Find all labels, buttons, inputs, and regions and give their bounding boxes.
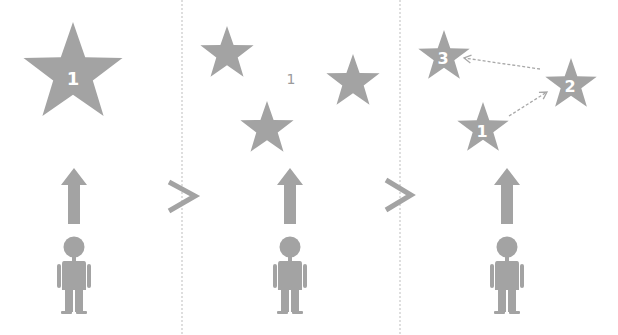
up-arrow-icon — [277, 168, 303, 224]
star-label: 1 — [67, 68, 80, 89]
person-head — [64, 237, 85, 258]
star-shape — [326, 54, 379, 105]
panel-single-goal: 1 — [24, 22, 123, 314]
floating-label: 1 — [287, 71, 296, 87]
panel-ordered-goals: 3 2 1 — [418, 30, 596, 314]
arrow-shape — [61, 168, 87, 224]
star-label: 2 — [564, 77, 575, 96]
person-arm — [57, 264, 61, 288]
person-leg — [75, 288, 83, 312]
person-torso — [62, 261, 86, 290]
up-arrow-icon — [61, 168, 87, 224]
star-shape — [240, 101, 293, 152]
person-leg — [281, 288, 289, 312]
star-label: 1 — [476, 122, 487, 141]
goal-progression-diagram: 1 1 3 2 1 — [0, 0, 618, 335]
person-foot — [509, 311, 520, 314]
person-neck — [505, 256, 509, 261]
person-leg — [291, 288, 299, 312]
person-torso — [278, 261, 302, 290]
star-label: 3 — [437, 49, 448, 68]
person-foot — [61, 311, 72, 314]
star-icon — [240, 101, 293, 152]
person-arm — [273, 264, 277, 288]
star-icon — [326, 54, 379, 105]
person-icon — [57, 237, 91, 315]
person-neck — [72, 256, 76, 261]
person-arm — [303, 264, 307, 288]
dashed-arrow-icon — [464, 58, 540, 69]
person-leg — [508, 288, 516, 312]
panel-multiple-unordered-goals: 1 — [200, 26, 379, 314]
person-icon — [273, 237, 307, 315]
arrow-shape — [494, 168, 520, 224]
person-neck — [288, 256, 292, 261]
person-foot — [76, 311, 87, 314]
person-arm — [490, 264, 494, 288]
person-leg — [498, 288, 506, 312]
star-icon — [200, 26, 253, 77]
up-arrow-icon — [494, 168, 520, 224]
person-foot — [292, 311, 303, 314]
person-torso — [495, 261, 519, 290]
person-head — [280, 237, 301, 258]
person-arm — [87, 264, 91, 288]
chevron-right-icon — [386, 180, 411, 210]
person-head — [497, 237, 518, 258]
person-icon — [490, 237, 524, 315]
star-shape — [200, 26, 253, 77]
person-arm — [520, 264, 524, 288]
arrow-shape — [277, 168, 303, 224]
dashed-arrow-icon — [509, 92, 547, 116]
person-foot — [494, 311, 505, 314]
person-foot — [277, 311, 288, 314]
person-leg — [65, 288, 73, 312]
